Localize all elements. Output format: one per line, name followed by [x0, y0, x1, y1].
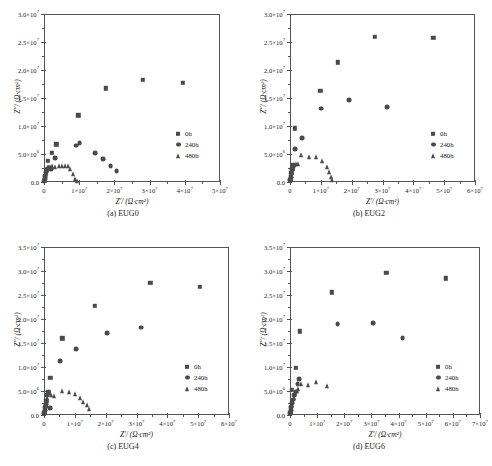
data-point-c-480h-9: [67, 390, 71, 395]
legend-marker-triangle-icon: [431, 153, 435, 158]
x-minor-tick-b-3: [398, 182, 399, 184]
y-tick-inner-a-3: [44, 98, 46, 99]
y-tick-label-b-1: 5.0×106: [246, 151, 285, 158]
x-tick-inner-b-1: [321, 180, 322, 182]
data-point-d-480h-9: [306, 382, 310, 387]
x-tick-inner-d-5: [426, 413, 427, 415]
x-tick-label-d-5: 5×107: [418, 420, 434, 427]
legend-label-c-1: 240h: [194, 374, 208, 381]
legend-marker-circle-icon: [185, 375, 190, 380]
data-point-c-480h-1: [43, 406, 47, 411]
legend-marker-circle-icon: [436, 375, 441, 380]
y-tick-inner-d-2: [290, 367, 292, 368]
x-tick-label-b-3: 3×107: [375, 187, 391, 194]
y-tick-inner-b-1: [290, 154, 292, 155]
x-minor-tick-c-5: [214, 415, 215, 417]
x-tick-label-d-7: 7×107: [472, 420, 488, 427]
data-point-d-0h-6: [384, 271, 388, 275]
y-tick-inner-a-2: [44, 126, 46, 127]
x-tick-c-3: [137, 415, 138, 418]
y-minor-tick-b-2: [288, 112, 290, 113]
data-point-d-240h-10: [370, 320, 375, 325]
data-point-a-0h-10: [181, 81, 185, 85]
x-minor-tick-b-5: [460, 182, 461, 184]
x-tick-inner-b-2: [352, 180, 353, 182]
y-minor-tick-a-1: [42, 140, 44, 141]
x-tick-label-a-4: 4×107: [177, 187, 193, 194]
data-point-b-480h-11: [320, 159, 324, 164]
data-point-c-240h-8: [105, 331, 110, 336]
y-tick-inner-a-6: [44, 14, 46, 15]
y-tick-label-d-1: 5.0×106: [246, 388, 285, 395]
data-point-b-240h-6: [300, 135, 305, 140]
legend-label-c-0: 0h: [194, 363, 201, 370]
x-tick-inner-b-6: [475, 180, 476, 182]
data-point-b-0h-7: [336, 60, 340, 64]
data-point-d-480h-7: [296, 386, 300, 391]
x-minor-tick-a-4: [202, 182, 203, 184]
x-tick-inner-c-6: [229, 413, 230, 415]
data-point-a-480h-16: [75, 178, 79, 183]
y-tick-label-b-0: 0.0: [246, 179, 285, 186]
data-point-d-240h-11: [400, 336, 405, 341]
x-axis-label-d: Z′/ (Ω·cm²): [290, 430, 480, 439]
x-minor-tick-b-2: [367, 182, 368, 184]
y-minor-tick-b-5: [288, 28, 290, 29]
x-minor-tick-d-4: [412, 415, 413, 417]
x-tick-b-6: [475, 182, 476, 185]
x-minor-tick-d-0: [304, 415, 305, 417]
y-tick-inner-b-6: [290, 14, 292, 15]
y-tick-inner-b-2: [290, 126, 292, 127]
legend-label-d-1: 240h: [445, 374, 459, 381]
y-tick-inner-d-6: [290, 271, 292, 272]
x-minor-tick-b-4: [429, 182, 430, 184]
x-minor-tick-d-1: [331, 415, 332, 417]
y-tick-label-a-0: 0.0: [0, 179, 39, 186]
x-tick-label-d-3: 3×107: [363, 420, 379, 427]
y-tick-inner-c-2: [44, 367, 46, 368]
x-minor-tick-d-5: [439, 415, 440, 417]
x-tick-label-a-1: 1×107: [71, 187, 87, 194]
x-tick-inner-c-1: [75, 413, 76, 415]
x-tick-label-c-3: 3×107: [129, 420, 145, 427]
x-minor-tick-c-4: [183, 415, 184, 417]
legend-label-a-0: 0h: [185, 130, 192, 137]
data-point-b-480h-8: [299, 152, 303, 157]
x-minor-tick-a-1: [97, 182, 98, 184]
x-minor-tick-c-2: [121, 415, 122, 417]
legend-label-b-0: 0h: [440, 130, 447, 137]
legend-marker-triangle-icon: [185, 386, 189, 391]
x-tick-inner-d-2: [344, 413, 345, 415]
x-tick-label-c-1: 1×107: [67, 420, 83, 427]
x-minor-tick-d-6: [466, 415, 467, 417]
x-minor-tick-c-1: [90, 415, 91, 417]
x-tick-inner-b-3: [383, 180, 384, 182]
y-minor-tick-a-3: [42, 84, 44, 85]
data-point-c-0h-5: [48, 375, 52, 379]
plot-panel-a: 0.05.0×1061.0×1071.5×1072.0×1072.5×1073.…: [0, 0, 246, 233]
x-tick-inner-a-4: [185, 180, 186, 182]
x-minor-tick-a-0: [62, 182, 63, 184]
x-tick-inner-b-5: [444, 180, 445, 182]
y-tick-label-d-7: 3.5×107: [246, 244, 285, 251]
data-point-b-0h-9: [431, 36, 435, 40]
y-tick-inner-c-3: [44, 343, 46, 344]
x-tick-label-c-2: 2×107: [98, 420, 114, 427]
x-tick-label-c-5: 5×107: [190, 420, 206, 427]
panel-caption-d: (d) EUG6: [246, 442, 492, 451]
y-minor-tick-c-5: [42, 283, 44, 284]
data-point-a-240h-10: [93, 150, 98, 155]
data-point-c-480h-7: [52, 393, 56, 398]
x-tick-label-d-1: 1×107: [309, 420, 325, 427]
x-tick-label-b-5: 5×107: [436, 187, 452, 194]
x-tick-c-2: [106, 415, 107, 418]
y-tick-inner-a-4: [44, 70, 46, 71]
y-minor-tick-d-3: [288, 331, 290, 332]
x-minor-tick-a-3: [167, 182, 168, 184]
data-point-d-0h-4: [298, 329, 302, 333]
y-tick-inner-d-4: [290, 319, 292, 320]
data-point-d-240h-9: [335, 321, 340, 326]
x-tick-inner-c-5: [198, 413, 199, 415]
y-tick-inner-d-7: [290, 247, 292, 248]
y-minor-tick-a-2: [42, 112, 44, 113]
